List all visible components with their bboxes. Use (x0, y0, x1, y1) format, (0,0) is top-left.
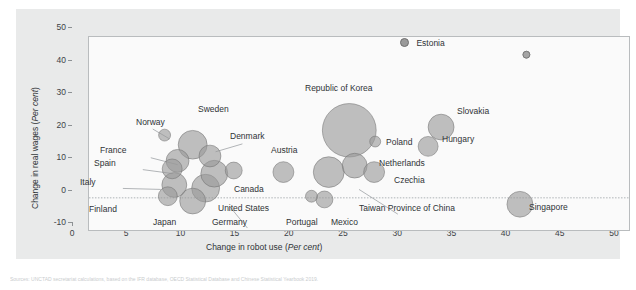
bubble-netherlands[interactable] (342, 153, 367, 178)
x-axis-title-plain: Change in robot use ( (206, 242, 288, 252)
y-tick-label-0: 0 (32, 185, 66, 195)
bubble-label-austria: Austria (271, 145, 297, 155)
bubble-label-republic-of-korea: Republic of Korea (305, 83, 373, 93)
y-tick-label-50: 50 (32, 22, 66, 32)
bubble-label-finland: Finland (89, 204, 117, 214)
bubble-label-germany: Germany (212, 217, 247, 227)
y-tick-label-40: 40 (32, 55, 66, 65)
bubble-label-mexico: Mexico (331, 217, 358, 227)
bubble-hungary[interactable] (418, 136, 438, 156)
x-axis-title-close: ) (319, 242, 322, 252)
x-tick-mark (72, 222, 73, 226)
bubble-label-canada: Canada (234, 184, 264, 194)
bubbles-group (158, 51, 532, 217)
bubble-label-czechia: Czechia (394, 175, 425, 185)
bubble-label-poland: Poland (386, 137, 412, 147)
bubble-label-singapore: Singapore (529, 202, 568, 212)
x-axis-title: Change in robot use (Per cent) (206, 242, 322, 252)
bubble-spain[interactable] (162, 159, 182, 179)
bubble-label-portugal: Portugal (286, 217, 318, 227)
bubble-label-taiwan-province-of-china: Taiwan Province of China (359, 203, 455, 213)
bubble-mexico[interactable] (316, 191, 333, 208)
label-leader-line (123, 188, 161, 189)
bubble-austria[interactable] (273, 162, 294, 183)
y-tick-label--10: -10 (32, 217, 66, 227)
bubble-taiwan-province-of-china[interactable] (313, 157, 344, 188)
bubble-label-netherlands: Netherlands (379, 158, 425, 168)
estonia-legend: Estonia (400, 38, 445, 48)
bubble-label-united-states: United States (218, 203, 269, 213)
bubble-label-italy: Italy (80, 177, 96, 187)
bubble-label-japan: Japan (153, 217, 176, 227)
top-white-strip (0, 0, 636, 8)
y-tick-mark (68, 125, 72, 126)
estonia-marker-icon (400, 38, 409, 47)
x-tick-label-0: 0 (56, 228, 88, 238)
bubble-canada[interactable] (225, 162, 242, 179)
figure-container: Change in real wages (Per cent) Change i… (0, 0, 636, 290)
figure-source-caption: Sources: UNCTAD secretariat calculations… (10, 276, 626, 283)
y-tick-mark (68, 92, 72, 93)
y-tick-mark (68, 27, 72, 28)
bubble-denmark[interactable] (199, 145, 221, 167)
bubble-label-spain: Spain (94, 158, 116, 168)
bubble-label-denmark: Denmark (230, 131, 264, 141)
bubble-label-slovakia: Slovakia (457, 106, 489, 116)
bubble-republic-of-korea[interactable] (322, 104, 376, 157)
bubble-label-hungary: Hungary (442, 134, 474, 144)
bubble-poland[interactable] (370, 136, 381, 147)
y-tick-label-30: 30 (32, 87, 66, 97)
bubble-label-france: France (100, 145, 126, 155)
y-tick-mark (68, 157, 72, 158)
bubble-label-norway: Norway (136, 117, 165, 127)
y-tick-label-20: 20 (32, 120, 66, 130)
y-tick-mark (68, 190, 72, 191)
estonia-legend-label: Estonia (416, 38, 444, 48)
chart-panel: Change in real wages (Per cent) Change i… (16, 9, 620, 259)
y-tick-mark (68, 60, 72, 61)
bubble-portugal[interactable] (306, 190, 318, 202)
bubble-estonia-plot[interactable] (523, 51, 530, 58)
y-axis-title-plain: Change in real wages ( (30, 122, 40, 209)
y-tick-label-10: 10 (32, 152, 66, 162)
x-axis-title-unit: Per cent (288, 242, 320, 252)
bubble-finland[interactable] (158, 187, 177, 206)
bubble-label-sweden: Sweden (198, 104, 229, 114)
bubble-norway[interactable] (159, 129, 171, 141)
